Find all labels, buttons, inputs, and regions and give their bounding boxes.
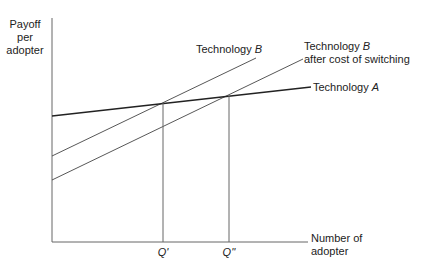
q2-tick-label: Q'': [223, 246, 236, 258]
technology-b-line: [52, 58, 256, 156]
technology-b-after-cost-label: Technology B after cost of switching: [304, 40, 410, 66]
y-label-line: per: [0, 31, 50, 44]
y-label-line: Payoff: [0, 18, 50, 31]
x-axis-label: Number of adopter: [311, 232, 362, 258]
y-label-line: adopter: [0, 44, 50, 57]
technology-a-line: [52, 87, 311, 116]
y-axis-label: Payoff per adopter: [0, 18, 50, 57]
q1-tick-label: Q': [158, 246, 169, 258]
technology-a-label: Technology A: [313, 81, 379, 94]
technology-b-after-cost-line: [52, 59, 303, 180]
technology-b-label: Technology B: [196, 43, 262, 56]
